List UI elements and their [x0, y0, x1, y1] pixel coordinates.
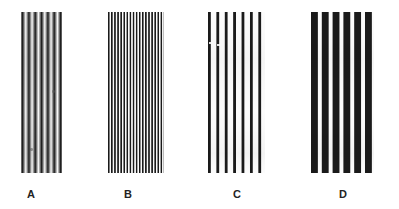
scan-dropout: [217, 44, 221, 46]
scan-speck: [52, 90, 55, 93]
panel-c-label: C: [217, 188, 257, 201]
scan-dropout: [209, 42, 212, 44]
panel-b-label: B: [108, 188, 148, 201]
grating-figure: A B C D: [0, 0, 399, 209]
panel-b-grating: [108, 12, 164, 173]
panel-c-grating: [208, 12, 265, 173]
panel-d-grating: [311, 12, 374, 173]
panel-a-grating: [21, 12, 62, 173]
scan-speck: [30, 148, 33, 151]
panel-d-label: D: [323, 188, 363, 201]
panel-a-label: A: [11, 188, 51, 201]
